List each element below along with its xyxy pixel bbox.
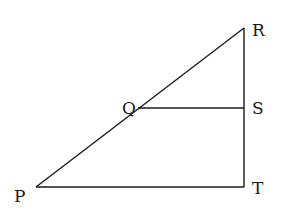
label-P: P xyxy=(14,186,25,206)
geometry-diagram: P Q R S T xyxy=(0,0,289,218)
label-T: T xyxy=(252,178,264,198)
label-S: S xyxy=(252,98,264,118)
label-Q: Q xyxy=(122,98,136,118)
label-R: R xyxy=(252,20,266,40)
